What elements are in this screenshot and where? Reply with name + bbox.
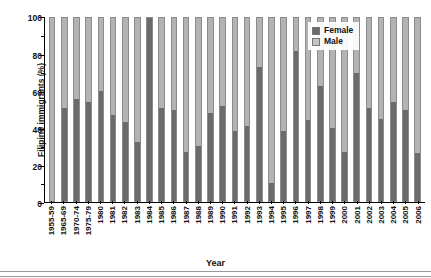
x-tick-label: 1985 (157, 206, 166, 224)
footer-rule (0, 271, 431, 272)
stacked-bar (146, 17, 153, 202)
x-tickmark (222, 201, 223, 204)
x-tick-label: 1987 (181, 206, 190, 224)
bar-segment-female (281, 131, 286, 201)
bar-segment-female (415, 153, 420, 201)
x-tickmark (271, 201, 272, 204)
stacked-bar (183, 17, 190, 202)
x-tick-label: 1997 (303, 206, 312, 224)
x-tickmark (405, 201, 406, 204)
bar-slot (204, 17, 216, 202)
x-tickmark (198, 201, 199, 204)
x-tick-label: 1986 (169, 206, 178, 224)
x-tick-label: 2005 (401, 206, 410, 224)
bar-segment-female (318, 86, 323, 201)
x-tick-slot: 1996 (289, 204, 301, 260)
stacked-bar (122, 17, 129, 202)
x-tick-label: 2000 (340, 206, 349, 224)
x-tick-slot: 1987 (179, 204, 191, 260)
x-tick-slot: 1986 (167, 204, 179, 260)
x-tick-label: 2003 (377, 206, 386, 224)
stacked-bar (110, 17, 117, 202)
stacked-bar (390, 17, 397, 202)
x-tick-label: 1998 (315, 206, 324, 224)
bar-segment-female (367, 108, 372, 201)
x-tick-slot: 1982 (118, 204, 130, 260)
x-tick-label: 1991 (230, 206, 239, 224)
footer-rule (0, 276, 431, 277)
bar-slot (95, 17, 107, 202)
bar-slot (156, 17, 168, 202)
y-tick-label: 80 (18, 52, 42, 60)
bar-segment-female (208, 113, 213, 201)
x-tick-label: 1988 (193, 206, 202, 224)
bar-segment-female (330, 128, 335, 201)
x-tickmark (161, 201, 162, 204)
x-tick-label: 1982 (120, 206, 129, 224)
x-tick-label: 1996 (291, 206, 300, 224)
stacked-bar (49, 17, 56, 202)
stacked-bar (158, 17, 165, 202)
x-axis-ticks: 1955-591965-691970-741975-79198019811982… (44, 204, 425, 260)
x-tick-label: 1990 (218, 206, 227, 224)
x-tick-label: 1980 (95, 206, 104, 224)
stacked-bar (207, 17, 214, 202)
x-tick-slot: 1991 (228, 204, 240, 260)
x-tick-label: 1999 (328, 206, 337, 224)
x-tickmark (63, 201, 64, 204)
bar-segment-female (184, 152, 189, 201)
legend-label-male: Male (324, 36, 343, 47)
bar-segment-female (147, 18, 152, 201)
stacked-bar (256, 17, 263, 202)
bar-slot (107, 17, 119, 202)
bar-segment-female (135, 142, 140, 201)
x-tick-slot: 2003 (375, 204, 387, 260)
x-tickmark (76, 201, 77, 204)
x-tickmark (247, 201, 248, 204)
x-tickmark (124, 201, 125, 204)
stacked-bar (219, 17, 226, 202)
bar-slot (412, 17, 424, 202)
bar-segment-female (99, 91, 104, 201)
bar-slot (253, 17, 265, 202)
x-tick-slot: 1990 (216, 204, 228, 260)
x-tick-slot: 1980 (94, 204, 106, 260)
y-tick-label: 60 (18, 89, 42, 97)
legend-item-female: Female (312, 25, 353, 36)
bar-slot (58, 17, 70, 202)
bar-slot (144, 17, 156, 202)
x-tickmark (283, 201, 284, 204)
stacked-bar (73, 17, 80, 202)
x-tick-label: 1993 (254, 206, 263, 224)
bar-slot (217, 17, 229, 202)
x-tick-slot: 1998 (314, 204, 326, 260)
x-tickmark (88, 201, 89, 204)
x-axis-title: Year (0, 258, 431, 268)
stacked-bar (293, 17, 300, 202)
bar-segment-female (342, 152, 347, 201)
bar-segment-female (233, 131, 238, 201)
x-tick-label: 1992 (242, 206, 251, 224)
stacked-bar (280, 17, 287, 202)
bar-group (45, 17, 425, 202)
x-tick-slot: 1965-69 (57, 204, 69, 260)
bar-slot (180, 17, 192, 202)
x-tick-slot: 1984 (143, 204, 155, 260)
bar-segment-female (172, 110, 177, 202)
x-tick-slot: 1983 (131, 204, 143, 260)
x-tickmark (137, 201, 138, 204)
x-tick-slot: 1975-79 (82, 204, 94, 260)
bar-segment-female (306, 120, 311, 201)
x-tickmark (320, 201, 321, 204)
bar-slot (387, 17, 399, 202)
bar-segment-female (220, 106, 225, 201)
x-tick-label: 2004 (389, 206, 398, 224)
x-tick-label: 1983 (132, 206, 141, 224)
y-tick-label: 100 (18, 14, 42, 22)
x-tick-label: 2006 (413, 206, 422, 224)
stacked-bar (414, 17, 421, 202)
stacked-bar (232, 17, 239, 202)
bar-segment-female (269, 183, 274, 201)
stacked-bar (134, 17, 141, 202)
bar-segment-female (123, 122, 128, 201)
